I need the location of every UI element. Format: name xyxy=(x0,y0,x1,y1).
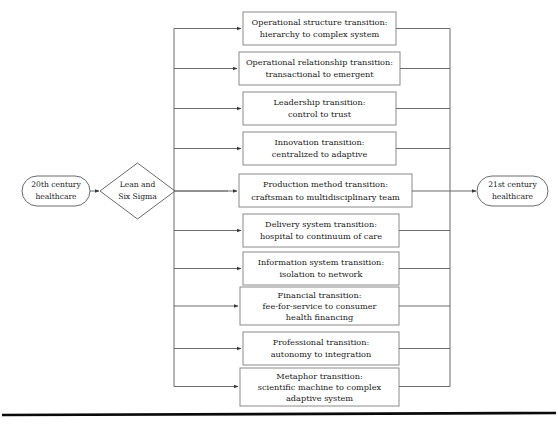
transition-box-innovation-transition[interactable]: Innovation transition: centralized to ad… xyxy=(243,132,396,165)
transition-box-operational-structure-transition[interactable]: Operational structure transition: hierar… xyxy=(243,12,396,45)
transition-box-operational-relationship-transition[interactable]: Operational relationship transition: tra… xyxy=(239,52,400,85)
transition-label-line1: Metaphor transition: xyxy=(276,371,362,381)
decision-node-label-line2: Six Sigma xyxy=(118,192,157,201)
process-flow-diagram: 20th century healthcare Lean and Six Sig… xyxy=(0,0,558,430)
transition-label-line1: Innovation transition: xyxy=(275,137,365,147)
transition-label-line1: Delivery system transition: xyxy=(265,219,377,229)
transition-box-leadership-transition[interactable]: Leadership transition: control to trust xyxy=(243,92,396,125)
decision-node-lean-and-six-sigma[interactable]: Lean and Six Sigma xyxy=(100,163,175,219)
transition-label-line1: Operational relationship transition: xyxy=(246,57,393,67)
end-node-21st-century-healthcare[interactable]: 21st century healthcare xyxy=(477,176,548,206)
transition-label-line3: adaptive system xyxy=(286,393,353,403)
transition-label-line1: Financial transition: xyxy=(277,290,361,300)
end-node-label-line2: healthcare xyxy=(492,192,534,201)
transition-label-line2: control to trust xyxy=(288,109,352,119)
start-node-label-line1: 20th century xyxy=(31,180,81,189)
transition-label-line2: fee-for-service to consumer xyxy=(263,301,377,311)
transition-label-line2: hospital to continuum of care xyxy=(260,231,382,241)
transition-label-line2: craftsman to multidisciplinary team xyxy=(251,192,400,202)
bottom-rule xyxy=(2,413,556,415)
transition-box-metaphor-transition[interactable]: Metaphor transition: scientific machine … xyxy=(240,368,399,406)
decision-node-label-line1: Lean and xyxy=(120,180,156,189)
transition-label-line3: health financing xyxy=(286,312,353,322)
transition-label-line2: hierarchy to complex system xyxy=(260,29,380,39)
transition-label-line2: scientific machine to complex xyxy=(258,382,382,392)
transition-label-line1: Leadership transition: xyxy=(273,97,365,107)
transition-box-information-system-transition[interactable]: Information system transition: isolation… xyxy=(243,252,399,285)
start-node-20th-century-healthcare[interactable]: 20th century healthcare xyxy=(22,176,90,206)
start-node-label-line2: healthcare xyxy=(35,192,77,201)
transition-box-financial-transition[interactable]: Financial transition: fee-for-service to… xyxy=(240,287,399,325)
transition-box-delivery-system-transition[interactable]: Delivery system transition: hospital to … xyxy=(243,214,399,247)
transition-label-line2: autonomy to integration xyxy=(271,349,372,359)
transition-box-professional-transition[interactable]: Professional transition: autonomy to int… xyxy=(243,332,399,365)
transition-label-line1: Production method transition: xyxy=(263,179,388,189)
end-node-label-line1: 21st century xyxy=(488,180,537,189)
transition-label-line1: Professional transition: xyxy=(273,337,370,347)
transition-box-production-method-transition[interactable]: Production method transition: craftsman … xyxy=(239,174,412,207)
transition-label-line2: centralized to adaptive xyxy=(272,149,368,159)
transition-label-line1: Operational structure transition: xyxy=(251,17,387,27)
transition-label-line2: transactional to emergent xyxy=(265,69,374,79)
transition-label-line2: isolation to network xyxy=(279,269,363,279)
transition-label-line1: Information system transition: xyxy=(258,257,384,267)
